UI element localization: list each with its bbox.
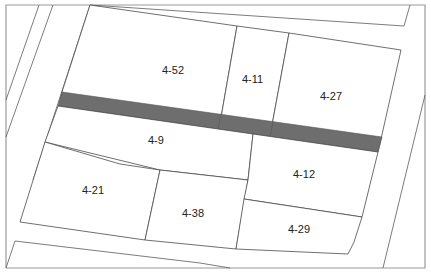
parcel-label-4-38: 4-38 <box>182 207 204 219</box>
parcel-label-4-29: 4-29 <box>288 223 310 235</box>
road-edge-line <box>383 95 425 268</box>
parcel-label-4-52: 4-52 <box>162 64 184 76</box>
road-edge-line <box>6 5 53 137</box>
parcel-label-4-12: 4-12 <box>293 168 315 180</box>
parcel-label-4-21: 4-21 <box>82 184 104 196</box>
road-edge-line <box>6 5 39 100</box>
parcel-label-4-27: 4-27 <box>320 90 342 102</box>
parcel-map: 4-52 4-11 4-27 4-9 4-21 4-38 4-12 4-29 <box>0 0 431 275</box>
parcel-label-4-9: 4-9 <box>148 134 164 146</box>
parcel-label-4-11: 4-11 <box>242 73 263 85</box>
